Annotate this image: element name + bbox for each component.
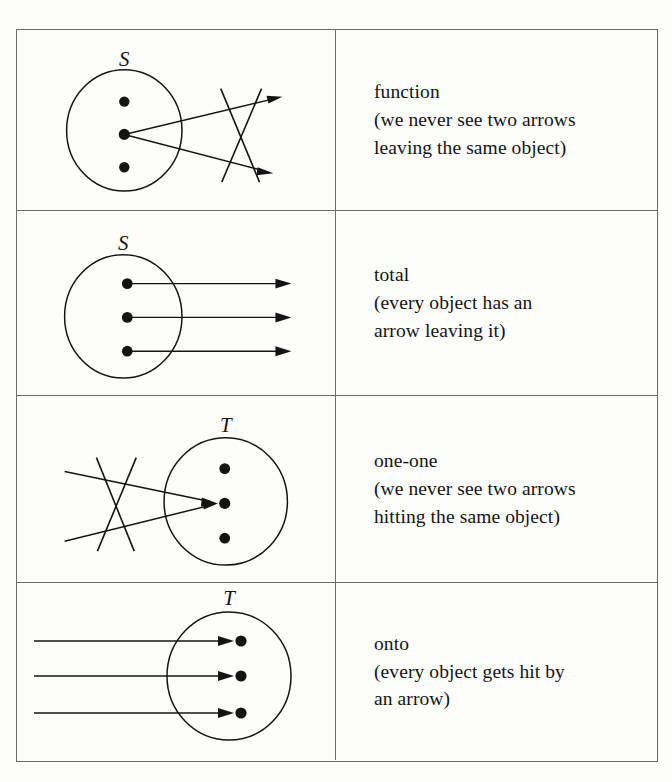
- diagram-cell-onto: T: [17, 583, 336, 760]
- caption-cell-one-one: one-one (we never see two arrows hitting…: [336, 396, 657, 582]
- arrow-incoming: [65, 472, 218, 507]
- page-canvas: S: [0, 0, 672, 782]
- caption-cell-total: total (every object has an arrow leaving…: [336, 211, 657, 395]
- table-row: T: [17, 583, 657, 760]
- diagram-cell-total: S: [17, 211, 336, 395]
- caption-cell-function: function (we never see two arrows leavin…: [336, 30, 657, 210]
- diagram-one-one: T: [17, 396, 336, 582]
- caption-onto: onto (every object gets hit by an arrow): [374, 630, 565, 713]
- caption-function: function (we never see two arrows leavin…: [374, 78, 576, 161]
- cross-out-mark: [96, 458, 136, 551]
- diagram-onto: T: [17, 583, 336, 760]
- arrow-incoming: [65, 500, 218, 541]
- set-label-s: S: [118, 231, 129, 255]
- arrow-outgoing: [124, 96, 282, 135]
- diagram-cell-one-one: T: [17, 396, 336, 582]
- arrow-outgoing: [127, 346, 291, 356]
- properties-table: S: [16, 29, 658, 762]
- arrow-outgoing: [124, 134, 273, 175]
- arrow-outgoing: [127, 279, 291, 289]
- element-dot: [235, 707, 246, 718]
- arrow-outgoing: [127, 312, 291, 322]
- diagram-function: S: [17, 30, 336, 210]
- arrow-incoming: [34, 671, 234, 681]
- diagram-cell-function: S: [17, 30, 336, 210]
- set-label-t: T: [220, 413, 233, 437]
- arrow-incoming: [34, 636, 234, 646]
- caption-total: total (every object has an arrow leaving…: [374, 261, 532, 344]
- element-dot: [235, 635, 246, 646]
- element-dot: [219, 498, 230, 509]
- caption-cell-onto: onto (every object gets hit by an arrow): [336, 583, 657, 760]
- table-row: S: [17, 30, 657, 211]
- set-label-s: S: [119, 47, 130, 71]
- table-row: T: [17, 396, 657, 583]
- element-dot: [119, 162, 129, 172]
- element-dot: [119, 96, 129, 106]
- element-dot: [235, 670, 246, 681]
- element-dot: [219, 533, 230, 544]
- table-row: S: [17, 211, 657, 396]
- diagram-total: S: [17, 211, 336, 395]
- caption-one-one: one-one (we never see two arrows hitting…: [374, 447, 576, 530]
- set-label-t: T: [223, 586, 236, 610]
- arrow-incoming: [34, 708, 234, 718]
- element-dot: [219, 463, 230, 474]
